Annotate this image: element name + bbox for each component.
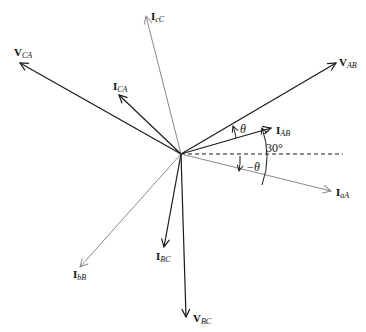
phasor-i-bc	[164, 154, 181, 247]
phasor-diagram: VABIABIaAIcCVCAICAIBCIbBVBC θ 30° −θ	[0, 0, 366, 332]
phasor-i-ab	[181, 128, 271, 154]
phasor-i-cc	[146, 16, 181, 154]
label-v-bc: VBC	[193, 312, 212, 326]
label-i-cc: IcC	[151, 10, 165, 24]
theta-arc	[233, 126, 236, 138]
phasor-v-ca	[20, 63, 181, 154]
thirty-degree-arc	[262, 128, 267, 185]
phasor-v-bc	[181, 154, 186, 317]
neg-theta-label: −θ	[246, 160, 260, 174]
phasor-group	[20, 16, 336, 317]
label-i-bb: IbB	[73, 268, 86, 282]
label-i-ca: ICA	[113, 80, 128, 94]
label-i-ab: IAB	[276, 124, 290, 138]
label-v-ab: VAB	[339, 56, 357, 70]
label-i-bc: IBC	[156, 250, 171, 264]
label-i-aa: IaA	[336, 186, 349, 200]
phasor-i-bb	[80, 154, 181, 267]
angle-arcs	[233, 126, 267, 185]
theta-label: θ	[240, 122, 246, 136]
thirty-degree-label: 30°	[266, 141, 283, 155]
phasor-v-ab	[181, 63, 336, 154]
label-v-ca: VCA	[14, 46, 32, 60]
